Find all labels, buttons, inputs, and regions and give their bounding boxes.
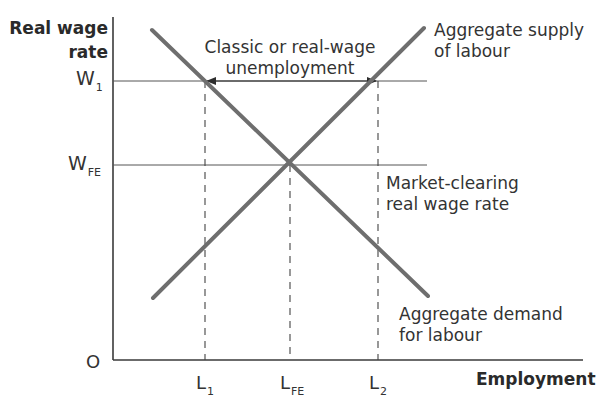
- x-tick-sub: 2: [380, 385, 387, 398]
- unemployment-annotation-line2: unemployment: [200, 58, 380, 79]
- x-tick-main: L: [196, 372, 206, 393]
- y-tick-main: W: [68, 152, 87, 174]
- x-tick-l1: L1: [196, 372, 214, 396]
- y-tick-main: W: [76, 67, 95, 89]
- unemployment-annotation: Classic or real-wage unemployment: [200, 37, 380, 79]
- x-tick-sub: FE: [291, 385, 304, 398]
- origin-label: O: [86, 351, 100, 372]
- y-axis-label: Real wage rate: [6, 16, 108, 64]
- demand-curve-label-line2: for labour: [399, 325, 563, 346]
- market-clearing-label-line2: real wage rate: [386, 194, 519, 215]
- y-tick-sub: FE: [88, 166, 101, 179]
- y-tick-wfe: WFE: [68, 153, 101, 177]
- x-tick-l2: L2: [369, 372, 387, 396]
- y-tick-w1: W1: [76, 68, 103, 92]
- x-tick-sub: 1: [207, 385, 214, 398]
- market-clearing-label-line1: Market-clearing: [386, 173, 519, 194]
- x-tick-lfe: LFE: [280, 372, 304, 396]
- demand-curve-label-line1: Aggregate demand: [399, 304, 563, 325]
- supply-curve-label-line1: Aggregate supply: [434, 20, 584, 41]
- supply-curve-label-line2: of labour: [434, 41, 584, 62]
- y-axis-label-line1: Real wage: [6, 16, 108, 40]
- market-clearing-label: Market-clearing real wage rate: [386, 173, 519, 215]
- x-tick-main: L: [280, 372, 290, 393]
- x-axis-label: Employment: [476, 369, 596, 390]
- demand-curve-label: Aggregate demand for labour: [399, 304, 563, 346]
- y-tick-sub: 1: [96, 81, 103, 94]
- x-tick-main: L: [369, 372, 379, 393]
- supply-curve-label: Aggregate supply of labour: [434, 20, 584, 62]
- y-axis-label-line2: rate: [6, 40, 108, 64]
- unemployment-annotation-line1: Classic or real-wage: [200, 37, 380, 58]
